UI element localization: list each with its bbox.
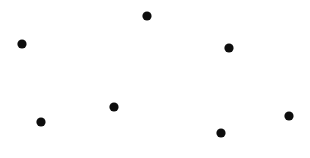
data-point <box>224 43 233 52</box>
data-point <box>216 128 225 137</box>
data-point <box>17 39 26 48</box>
scatter-plot-svg <box>0 0 310 158</box>
data-point <box>36 117 45 126</box>
data-point <box>284 111 293 120</box>
data-point <box>142 11 151 20</box>
scatter-plot-canvas <box>0 0 310 158</box>
plot-background <box>0 0 310 158</box>
data-point <box>109 102 118 111</box>
